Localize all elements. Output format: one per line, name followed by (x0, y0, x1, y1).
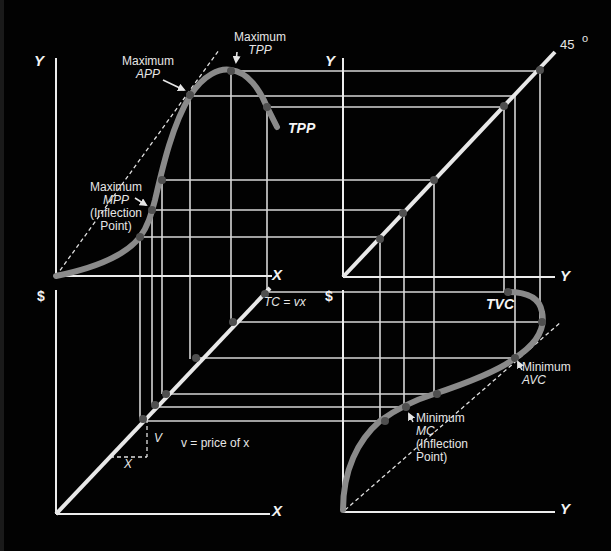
tl-y-axis-label: Y (34, 52, 44, 69)
intersection-points (136, 66, 546, 425)
tangent-lines (56, 50, 561, 510)
br-x-axis-label: Y (560, 500, 570, 517)
min-mc-line4: Point) (416, 451, 468, 464)
tc-vx-line (56, 288, 270, 514)
tpp-curve (56, 70, 277, 276)
degree-symbol: o (582, 32, 588, 44)
tpp-label: TPP (288, 120, 315, 136)
min-avc-line2: AVC (522, 374, 571, 387)
diagram-graphics (0, 0, 611, 551)
max-tpp-annotation: Maximum TPP (230, 31, 290, 57)
tvc-label: TVC (486, 296, 514, 312)
slope-v-label: V (154, 432, 162, 445)
min-mc-annotation: Minimum MC (Inflection Point) (416, 412, 468, 464)
bl-y-axis-label: $ (37, 288, 45, 304)
br-y-axis-label: $ (325, 288, 333, 304)
bl-x-axis-label: X (272, 502, 282, 519)
tl-x-axis-label: X (272, 266, 282, 283)
angle-label: 45 o (560, 38, 588, 52)
tc-vx-label: TC = vx (264, 296, 306, 309)
max-app-annotation: Maximum APP (115, 55, 181, 81)
tr-x-axis-label: Y (560, 267, 570, 284)
tr-y-axis-label: Y (325, 52, 335, 69)
angle-value: 45 (560, 37, 574, 52)
min-avc-annotation: Minimum AVC (522, 361, 571, 387)
tvc-curve (343, 292, 543, 510)
max-app-line2: APP (115, 68, 181, 81)
max-mpp-line4: Point) (84, 220, 148, 233)
price-note: v = price of x (181, 437, 249, 450)
forty-five-degree-line (343, 52, 555, 277)
max-mpp-annotation: Maximum MPP (Inflection Point) (84, 181, 148, 233)
projection-gridlines (140, 71, 540, 421)
max-tpp-line2: TPP (230, 44, 290, 57)
diagram-canvas: Y X TPP Maximum TPP Maximum APP Maximum … (0, 0, 611, 551)
slope-x-label: X (124, 458, 132, 471)
